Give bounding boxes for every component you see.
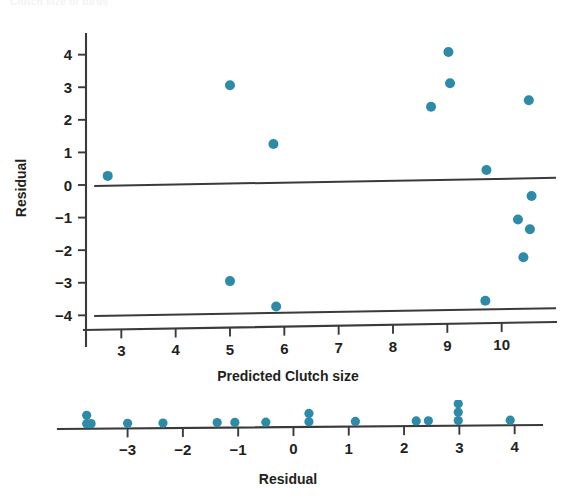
dotplot-point-11-0 xyxy=(454,416,463,425)
y-tick-label-3: 1 xyxy=(64,144,72,161)
dotplot-tick-label-4: 1 xyxy=(345,440,353,457)
x-tick-label-1: 4 xyxy=(171,341,180,358)
y-tick-label-5: −1 xyxy=(55,209,72,226)
data-point-0 xyxy=(103,171,113,181)
y-axis-title: Residual xyxy=(13,159,29,217)
dotplot-point-4-0 xyxy=(213,418,222,427)
dotplot-tick-label-7: 4 xyxy=(510,438,519,455)
data-point-5 xyxy=(445,78,455,88)
clipped-header-text: Clutch size of birds xyxy=(10,0,230,8)
zero-residual-line xyxy=(94,178,556,186)
data-point-14 xyxy=(271,302,281,312)
data-point-11 xyxy=(518,252,528,262)
dotplot-point-2-0 xyxy=(123,419,132,428)
dotplot-point-7-0 xyxy=(304,417,313,426)
data-point-1 xyxy=(225,80,235,90)
dotplot-tick-label-2: −1 xyxy=(230,441,247,458)
y-tick-label-8: −4 xyxy=(55,307,73,324)
x-axis-title: Predicted Clutch size xyxy=(217,368,359,384)
dotplot-point-group xyxy=(82,400,515,428)
dotplot-point-5-0 xyxy=(230,418,239,427)
y-tick-label-7: −3 xyxy=(55,274,72,291)
lower-boundary-line xyxy=(94,308,556,316)
dotplot-point-7-1 xyxy=(304,409,313,418)
reference-lines xyxy=(94,178,556,316)
dotplot-x-axis-title: Residual xyxy=(259,471,317,487)
data-point-10 xyxy=(525,224,535,234)
y-tick-label-4: 0 xyxy=(64,177,72,194)
data-point-13 xyxy=(225,276,235,286)
x-tick-label-3: 6 xyxy=(280,340,288,357)
data-point-2 xyxy=(268,139,278,149)
x-tick-label-0: 3 xyxy=(117,342,125,359)
dotplot-point-3-0 xyxy=(158,418,167,427)
data-point-12 xyxy=(480,296,490,306)
data-point-9 xyxy=(513,215,523,225)
x-axis-spine xyxy=(84,322,556,330)
dotplot-tick-label-3: 0 xyxy=(289,440,297,457)
figure-root: Clutch size of birds Residual 43210−1−2−… xyxy=(0,0,564,499)
dotplot-tick-label-5: 2 xyxy=(400,439,408,456)
x-tick-label-4: 7 xyxy=(334,339,342,356)
x-tick-label-5: 8 xyxy=(389,338,397,355)
dotplot-tick-labels: −3−2−101234 xyxy=(119,438,519,458)
x-axis-tick-labels: 345678910 xyxy=(117,336,510,359)
residual-dotplot: −3−2−101234 Residual xyxy=(0,400,564,499)
y-tick-label-2: 2 xyxy=(64,111,72,128)
dotplot-point-10-0 xyxy=(424,416,433,425)
x-tick-label-7: 10 xyxy=(493,336,510,353)
data-point-4 xyxy=(443,47,453,57)
y-tick-label-6: −2 xyxy=(55,242,72,259)
dotplot-point-0-1 xyxy=(82,411,91,420)
data-point-6 xyxy=(524,95,534,105)
dotplot-point-11-1 xyxy=(454,408,463,417)
x-tick-label-2: 5 xyxy=(226,341,234,358)
y-tick-label-0: 4 xyxy=(64,46,73,63)
y-tick-label-1: 3 xyxy=(64,79,72,96)
dotplot-point-8-0 xyxy=(351,417,360,426)
dotplot-tick-label-1: −2 xyxy=(174,441,191,458)
dotplot-point-1-0 xyxy=(86,419,95,428)
dotplot-point-12-0 xyxy=(506,416,515,425)
y-axis-tick-labels: 43210−1−2−3−4 xyxy=(55,46,73,324)
dotplot-tick-label-0: −3 xyxy=(119,441,136,458)
dotplot-point-6-0 xyxy=(261,418,270,427)
residual-vs-predicted-scatter-plot: Residual 43210−1−2−3−4 345678910 Predict… xyxy=(0,0,564,400)
dotplot-point-9-0 xyxy=(412,416,421,425)
data-point-7 xyxy=(481,165,491,175)
y-axis-tick-marks xyxy=(78,55,86,316)
dotplot-tick-label-6: 3 xyxy=(455,439,463,456)
data-point-3 xyxy=(426,102,436,112)
dotplot-point-11-2 xyxy=(454,400,463,408)
y-axis-title-group: Residual xyxy=(13,159,29,217)
data-point-8 xyxy=(527,191,537,201)
x-tick-label-6: 9 xyxy=(443,337,451,354)
